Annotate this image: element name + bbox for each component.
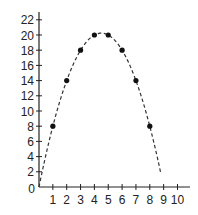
x-tick-label: 9 xyxy=(160,193,167,207)
x-tick-label: 10 xyxy=(171,193,185,207)
parabola-curve xyxy=(39,33,161,187)
x-tick-label: 1 xyxy=(50,193,57,207)
data-points xyxy=(50,32,152,128)
data-point xyxy=(120,48,125,53)
x-tick-label: 6 xyxy=(119,193,126,207)
y-tick-label: 4 xyxy=(27,150,34,164)
data-point xyxy=(92,32,97,37)
x-tick-label: 4 xyxy=(91,193,98,207)
y-tick-label: 16 xyxy=(21,59,35,73)
parabola-chart: 123456789102468101214161820220 xyxy=(0,0,198,215)
y-tick-label: 14 xyxy=(21,74,35,88)
data-point xyxy=(78,48,83,53)
y-tick-label: 12 xyxy=(21,89,35,103)
x-tick-label: 8 xyxy=(146,193,153,207)
x-tick-label: 5 xyxy=(105,193,112,207)
data-point xyxy=(50,124,55,129)
x-tick-label: 2 xyxy=(63,193,70,207)
origin-label: 0 xyxy=(28,182,35,196)
y-tick-label: 10 xyxy=(21,105,35,119)
y-tick-label: 8 xyxy=(27,120,34,134)
data-point xyxy=(106,32,111,37)
data-point xyxy=(147,124,152,129)
dashed-curve xyxy=(39,33,161,187)
y-tick-label: 20 xyxy=(21,29,35,43)
data-point xyxy=(133,78,138,83)
x-tick-label: 7 xyxy=(133,193,140,207)
y-tick-label: 22 xyxy=(21,13,35,27)
axes: 123456789102468101214161820220 xyxy=(21,12,190,207)
y-tick-label: 2 xyxy=(27,165,34,179)
y-tick-label: 6 xyxy=(27,135,34,149)
data-point xyxy=(64,78,69,83)
y-tick-label: 18 xyxy=(21,44,35,58)
x-tick-label: 3 xyxy=(77,193,84,207)
